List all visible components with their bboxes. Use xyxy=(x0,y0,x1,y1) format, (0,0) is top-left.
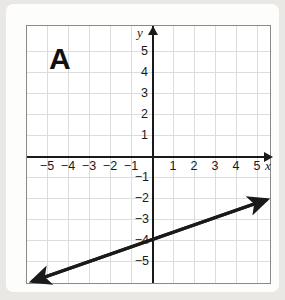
y-axis-label: y xyxy=(137,25,143,41)
figure-page: −5 −4 −3 −2 −1 1 2 3 4 5 5 4 3 2 1 −1 −2… xyxy=(0,0,285,300)
x-tick-label: −5 xyxy=(37,159,57,173)
y-tick-label: −4 xyxy=(125,233,149,247)
y-tick-label: 4 xyxy=(130,65,148,79)
x-axis-label: x xyxy=(265,158,271,174)
y-tick-label: −3 xyxy=(125,212,149,226)
x-tick-label: −3 xyxy=(79,159,99,173)
x-tick-label: 2 xyxy=(184,159,204,173)
paper-card: −5 −4 −3 −2 −1 1 2 3 4 5 5 4 3 2 1 −1 −2… xyxy=(6,4,279,292)
y-tick-label: 2 xyxy=(130,107,148,121)
figure-label: A xyxy=(49,44,71,74)
y-tick-label: 1 xyxy=(130,128,148,142)
y-tick-label: −5 xyxy=(125,254,149,268)
coordinate-plane: −5 −4 −3 −2 −1 1 2 3 4 5 5 4 3 2 1 −1 −2… xyxy=(26,25,271,284)
y-tick-label: −2 xyxy=(125,191,149,205)
y-tick-label: −1 xyxy=(125,170,149,184)
y-tick-label: 3 xyxy=(130,86,148,100)
x-tick-label: 3 xyxy=(205,159,225,173)
x-tick-label: 1 xyxy=(163,159,183,173)
x-tick-label: 4 xyxy=(226,159,246,173)
x-tick-label: −2 xyxy=(100,159,120,173)
y-tick-label: 5 xyxy=(130,44,148,58)
x-tick-label: −4 xyxy=(58,159,78,173)
x-tick-label: 5 xyxy=(247,159,267,173)
